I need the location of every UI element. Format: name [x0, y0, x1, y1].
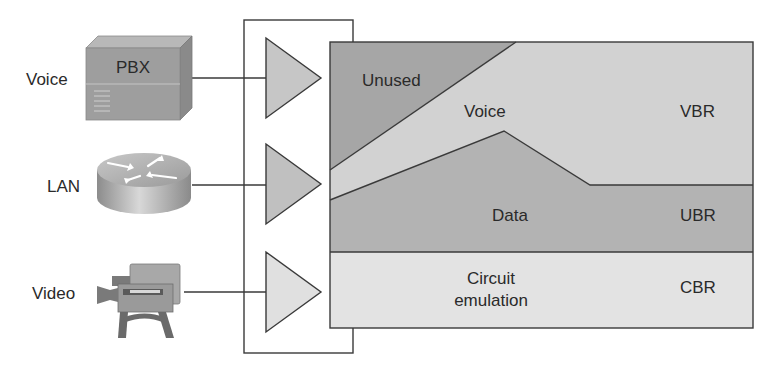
voice-region-label: Voice [464, 102, 506, 121]
bandwidth-chart: Unused Voice Data Circuit emulation VBR … [330, 42, 753, 328]
pbx-icon: PBX [86, 36, 192, 120]
unused-label: Unused [362, 71, 421, 90]
pbx-label: PBX [116, 58, 150, 77]
voice-source-label: Voice [26, 70, 68, 89]
vbr-label: VBR [680, 102, 715, 121]
data-region-label: Data [492, 206, 528, 225]
router-icon [97, 153, 191, 214]
lan-source-label: LAN [47, 177, 80, 196]
voice-mux-triangle-icon [266, 38, 321, 118]
video-mux-triangle-icon [266, 252, 321, 332]
circuit-label-line2: emulation [454, 291, 528, 310]
cbr-label: CBR [680, 278, 716, 297]
lan-mux-triangle-icon [266, 144, 321, 224]
ubr-label: UBR [680, 206, 716, 225]
video-camera-icon [97, 264, 180, 338]
atm-multiplexing-diagram: Unused Voice Data Circuit emulation VBR … [0, 0, 784, 365]
circuit-label-line1: Circuit [467, 269, 515, 288]
video-source-label: Video [32, 284, 75, 303]
